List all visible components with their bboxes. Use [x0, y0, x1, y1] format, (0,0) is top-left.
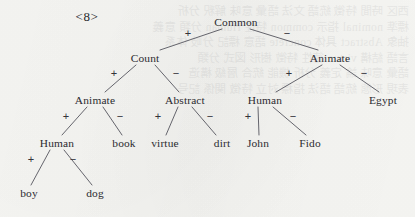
leaf-node-boy: boy	[20, 187, 38, 199]
edge-sign-human_l-dog: −	[70, 153, 76, 165]
tree-node-abstract: Abstract	[165, 94, 205, 106]
edge-sign-abstract-dirt: −	[207, 110, 213, 122]
tree-edge-count-animate_l	[105, 65, 136, 92]
edge-sign-animate_l-human_l: +	[63, 110, 69, 122]
leaf-node-john: John	[247, 137, 269, 149]
edge-sign-animate_l-book: −	[117, 110, 123, 122]
tree-edge-animate_r-human_r	[276, 65, 322, 92]
tree-node-human_l: Human	[40, 137, 74, 149]
tree-node-animate_r: Animate	[310, 52, 350, 64]
edge-sign-abstract-virtue: +	[155, 110, 161, 122]
tree-edge-animate_r-egypt	[340, 65, 379, 92]
tree-edge-human_l-dog	[64, 150, 92, 185]
edge-sign-common-count: +	[185, 27, 191, 39]
leaf-node-dog: dog	[86, 187, 104, 199]
figure-caption: <8>	[76, 9, 99, 25]
tree-edge-human_r-john	[258, 107, 259, 135]
edge-sign-count-animate_l: +	[111, 67, 117, 79]
edge-sign-count-abstract: −	[173, 67, 179, 79]
tree-node-animate_l: Animate	[75, 94, 115, 106]
tree-node-human_r: Human	[248, 94, 282, 106]
edge-sign-animate_r-human_r: +	[286, 67, 292, 79]
tree-edge-abstract-virtue	[166, 107, 178, 135]
leaf-node-book: book	[112, 137, 135, 149]
leaf-node-virtue: virtue	[151, 137, 178, 149]
edge-sign-human_r-fido: −	[290, 110, 296, 122]
leaf-node-fido: Fido	[299, 137, 321, 149]
tree-node-count: Count	[131, 52, 160, 64]
edge-sign-human_r-john: +	[245, 110, 251, 122]
figure-canvas: 西区 時間 特徵 統語 文法 語彙 意味 解釈 分析 標準 nominal 指示…	[0, 0, 415, 217]
tree-node-common: Common	[214, 16, 257, 28]
edge-sign-animate_r-egypt: −	[361, 67, 367, 79]
edge-sign-human_l-boy: +	[28, 153, 34, 165]
leaf-node-dirt: dirt	[214, 137, 230, 149]
leaf-node-egypt: Egypt	[369, 94, 397, 106]
tree-edges	[0, 0, 415, 217]
edge-sign-common-animate_r: −	[284, 27, 290, 39]
